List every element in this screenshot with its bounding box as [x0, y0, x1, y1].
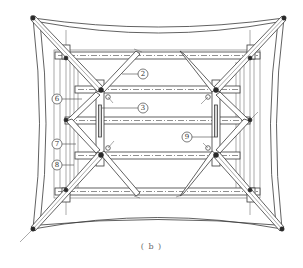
callout-7-label: 7 [55, 140, 59, 148]
callout-6: 6 [52, 94, 82, 104]
callout-9-label: 9 [185, 133, 189, 141]
callout-8-label: 8 [55, 161, 59, 169]
roof-frame-plan-drawing: 2 3 6 7 8 9 [0, 0, 303, 268]
callout-3: 3 [102, 103, 148, 113]
callout-3-label: 3 [141, 104, 145, 112]
figure-caption: ( b ) [0, 242, 303, 251]
callout-8: 8 [52, 160, 74, 170]
callout-9: 9 [182, 132, 214, 142]
callout-7: 7 [52, 139, 76, 149]
callout-2: 2 [122, 69, 148, 79]
callout-6-label: 6 [55, 95, 60, 103]
callout-2-label: 2 [141, 70, 145, 78]
